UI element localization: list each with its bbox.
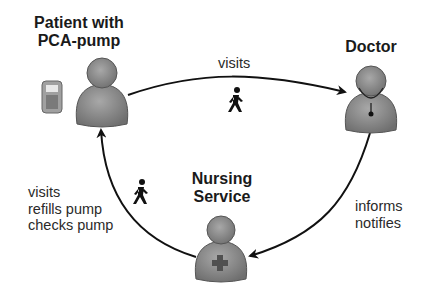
doctor-person-icon xyxy=(345,66,396,133)
patient-person-icon xyxy=(76,58,127,127)
nursing-title: Nursing Service xyxy=(187,170,257,207)
pca-pump-icon xyxy=(42,81,62,113)
edge-label-visits-refills-checks: visits refills pump checks pump xyxy=(28,184,113,234)
arrow-nursing-to-patient xyxy=(101,130,196,257)
doctor-title: Doctor xyxy=(340,38,402,56)
arrow-doctor-to-nursing xyxy=(250,133,370,256)
patient-title: Patient with PCA-pump xyxy=(24,14,134,51)
walking-person-icon xyxy=(228,87,243,112)
walking-person-icon xyxy=(133,179,148,204)
edge-label-visits: visits xyxy=(218,55,250,72)
nursing-person-icon xyxy=(195,216,246,282)
edge-label-informs-notifies: informs notifies xyxy=(355,198,403,231)
